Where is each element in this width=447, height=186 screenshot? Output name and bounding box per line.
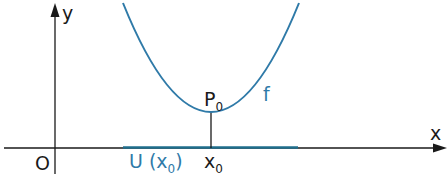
neighborhood-prefix: U (x [129,150,168,172]
x0-subscript: 0 [215,162,223,176]
x0-name: x [204,150,215,172]
x0-label: x0 [204,152,223,171]
function-label-f: f [263,85,270,104]
y-axis-label: y [62,4,73,23]
neighborhood-suffix: ) [175,150,182,172]
origin-label: O [35,154,50,173]
point-name: P [204,88,215,110]
x-axis-label: x [430,124,441,143]
coordinate-system [0,0,447,186]
neighborhood-subscript: 0 [168,162,176,176]
y-axis-arrowhead [51,3,60,17]
point-p0-label: P0 [204,90,223,109]
point-subscript: 0 [215,100,223,114]
neighborhood-label: U (x0) [129,152,183,171]
x-axis-arrowhead [433,144,447,153]
